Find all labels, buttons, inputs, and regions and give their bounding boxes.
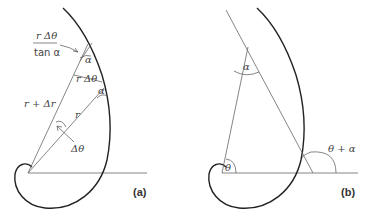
panel-label-a: (a) [133, 186, 147, 198]
spiral-curve-b [209, 8, 304, 208]
label-theta-plus-alpha: θ + α [328, 143, 356, 154]
panel-b: α θ θ + α (b) [209, 8, 358, 208]
label-arc-denominator: tan α [34, 47, 61, 58]
spiral-tangent-diagram: r Δθ tan α α r Δθ α r + Δr r Δθ (a) α θ … [0, 0, 377, 219]
label-arc-numerator: r Δθ [36, 30, 57, 41]
label-chord: r Δθ [76, 73, 97, 84]
panel-label-b: (b) [341, 186, 355, 198]
label-theta: θ [225, 162, 231, 173]
label-radius-outer: r + Δr [24, 98, 57, 109]
label-alpha-upper: α [85, 54, 92, 65]
panel-a: r Δθ tan α α r Δθ α r + Δr r Δθ (a) [15, 8, 147, 208]
label-alpha-lower: α [98, 85, 105, 96]
label-alpha-apex: α [243, 61, 250, 72]
label-delta-theta: Δθ [70, 143, 84, 154]
pointer-arrow-delta-theta [57, 126, 74, 142]
